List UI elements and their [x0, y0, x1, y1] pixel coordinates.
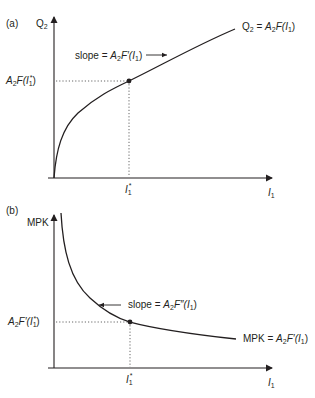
panel-b-label: (b) [6, 205, 18, 216]
panel-b-curve-label: MPK = A2F′(I1) [243, 333, 308, 345]
panel-b-x-axis-label: I1 [268, 377, 275, 389]
panel-a-x-tick-label: I1* [125, 182, 132, 196]
panel-a-x-axis-label: I1 [268, 187, 275, 199]
panel-b-y-tick-label: A2F′(I1*) [7, 315, 40, 328]
panel-a-y-axis-label: Q2 [36, 18, 48, 30]
panel-a-y-tick-label: A2F(I1*) [5, 74, 36, 87]
figure: (a) Q2 I1 slope = A2F′(I1) Q2 = A2F(I1) … [0, 0, 315, 398]
panel-b-mpk-curve [61, 213, 236, 339]
panel-b-slope-label: slope = A2F″(I1) [128, 299, 197, 311]
panel-a-curve-label: Q2 = A2F(I1) [242, 21, 295, 33]
panel-a-marked-point [127, 79, 132, 84]
panel-a-slope-label: slope = A2F′(I1) [75, 50, 142, 62]
panel-b-marked-point [128, 320, 133, 325]
panel-a-label: (a) [6, 18, 18, 29]
panel-b-x-tick-label: I1* [126, 372, 133, 386]
panel-a: (a) Q2 I1 slope = A2F′(I1) Q2 = A2F(I1) … [5, 17, 295, 199]
panel-b: (b) MPK I1 slope = A2F″(I1) MPK = A2F′(I… [6, 205, 308, 389]
panel-b-y-axis-label: MPK [27, 217, 49, 228]
